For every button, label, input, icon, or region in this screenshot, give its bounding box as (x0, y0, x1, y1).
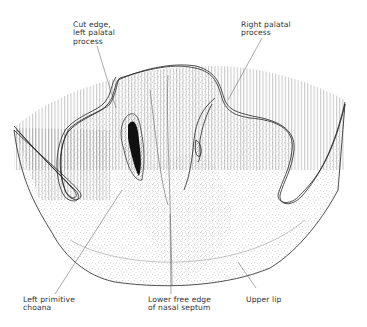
label-cut-edge-left-palatal-process: Cut edge, left palatal process (73, 21, 115, 46)
label-upper-lip: Upper lip (246, 296, 281, 304)
palate-illustration (0, 0, 367, 327)
label-lower-free-edge-nasal-septum: Lower free edge of nasal septum (148, 296, 211, 313)
label-right-palatal-process: Right palatal process (241, 21, 291, 38)
label-left-primitive-choana: Left primitive choana (23, 296, 75, 313)
